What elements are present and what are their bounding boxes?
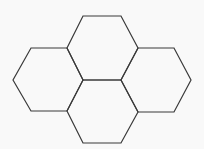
hexagon-right bbox=[121, 48, 191, 112]
hexagon-middle bbox=[67, 80, 138, 143]
hexagon-diagram bbox=[0, 0, 204, 149]
